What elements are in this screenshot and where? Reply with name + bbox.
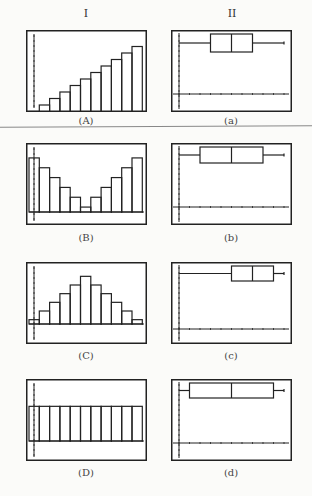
boxplot-c xyxy=(171,262,292,344)
boxplot-b xyxy=(171,143,292,225)
histogram-bar xyxy=(29,112,39,113)
boxplot-d xyxy=(171,379,292,461)
caption-a: (a) xyxy=(211,115,251,126)
histogram-D xyxy=(26,379,147,461)
caption-d: (d) xyxy=(211,467,251,478)
caption-C: (C) xyxy=(66,350,106,361)
divider-line xyxy=(0,125,312,128)
histogram-A xyxy=(26,30,147,112)
caption-B: (B) xyxy=(66,232,106,243)
caption-b: (b) xyxy=(211,232,251,243)
caption-c: (c) xyxy=(211,350,251,361)
histogram-B xyxy=(26,143,147,225)
column-header-right: II xyxy=(212,7,252,20)
boxplot-a xyxy=(171,30,292,112)
caption-A: (A) xyxy=(66,115,106,126)
caption-D: (D) xyxy=(66,467,106,478)
histogram-C xyxy=(26,262,147,344)
column-header-left: I xyxy=(66,7,106,20)
